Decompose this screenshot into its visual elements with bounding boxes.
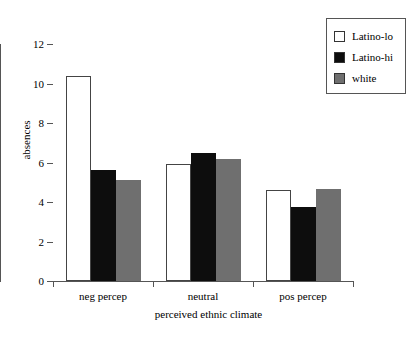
bar-pos-percep-latino-lo bbox=[266, 190, 291, 281]
legend-label-latino-hi: Latino-hi bbox=[352, 52, 393, 63]
legend-label-latino-lo: Latino-lo bbox=[352, 31, 393, 42]
y-axis-title: absences bbox=[0, 130, 56, 148]
y-axis-tick-label: 12 bbox=[0, 39, 44, 50]
legend-label-white: white bbox=[352, 73, 376, 84]
legend-swatch-latino-lo bbox=[334, 31, 345, 42]
x-axis-tick bbox=[353, 281, 354, 287]
y-axis-tick-label: 4 bbox=[0, 197, 44, 208]
x-axis-line bbox=[53, 281, 354, 282]
x-axis-tick bbox=[253, 281, 254, 287]
bar-neg-percep-latino-lo bbox=[66, 76, 91, 281]
plot-area bbox=[53, 44, 353, 281]
y-axis-title-text: absences bbox=[20, 120, 32, 159]
x-axis-title: perceived ethnic climate bbox=[0, 308, 417, 320]
x-axis-tick bbox=[53, 281, 54, 287]
bar-neg-percep-latino-hi bbox=[91, 170, 116, 281]
bar-chart-figure: Latino-lo Latino-hi white 024681012 abse… bbox=[0, 0, 417, 339]
bar-neutral-latino-lo bbox=[166, 164, 191, 281]
y-axis-tick-label: 10 bbox=[0, 79, 44, 90]
bar-neutral-white bbox=[216, 159, 241, 281]
bar-pos-percep-latino-hi bbox=[291, 207, 316, 281]
x-axis-category-label: pos percep bbox=[243, 290, 363, 302]
bar-neutral-latino-hi bbox=[191, 153, 216, 281]
bar-neg-percep-white bbox=[116, 180, 141, 281]
y-axis-tick-label: 0 bbox=[0, 276, 44, 287]
y-axis-tick-label: 2 bbox=[0, 237, 44, 248]
x-axis-tick bbox=[153, 281, 154, 287]
bar-pos-percep-white bbox=[316, 189, 341, 281]
